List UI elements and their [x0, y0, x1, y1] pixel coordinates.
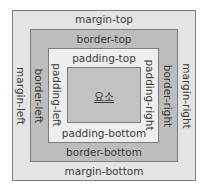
border-bottom-label: border-bottom: [66, 147, 142, 158]
margin-top-label: margin-top: [75, 14, 133, 25]
border-right-label: border-right: [163, 65, 174, 127]
content-label: 요소: [94, 88, 114, 104]
border-top-label: border-top: [77, 34, 132, 45]
padding-left-label: padding-left: [52, 63, 63, 126]
padding-bottom-label: padding-bottom: [62, 128, 146, 139]
border-left-label: border-left: [34, 69, 45, 124]
margin-bottom-label: margin-bottom: [65, 166, 144, 177]
margin-right-label: margin-right: [182, 63, 193, 129]
margin-left-label: margin-left: [16, 67, 27, 125]
padding-right-label: padding-right: [145, 59, 156, 130]
padding-top-label: padding-top: [72, 53, 136, 64]
